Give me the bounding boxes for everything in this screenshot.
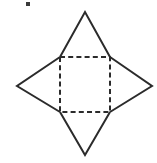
left-triangle-face [17,57,60,112]
geometric-figure-canvas [0,0,157,163]
net-diagram-svg [0,0,157,163]
bottom-triangle-face [60,112,110,155]
central-square-face [60,57,110,112]
right-triangle-face [110,57,152,112]
top-triangle-face [60,12,110,57]
scan-speck-artifact [26,2,30,6]
